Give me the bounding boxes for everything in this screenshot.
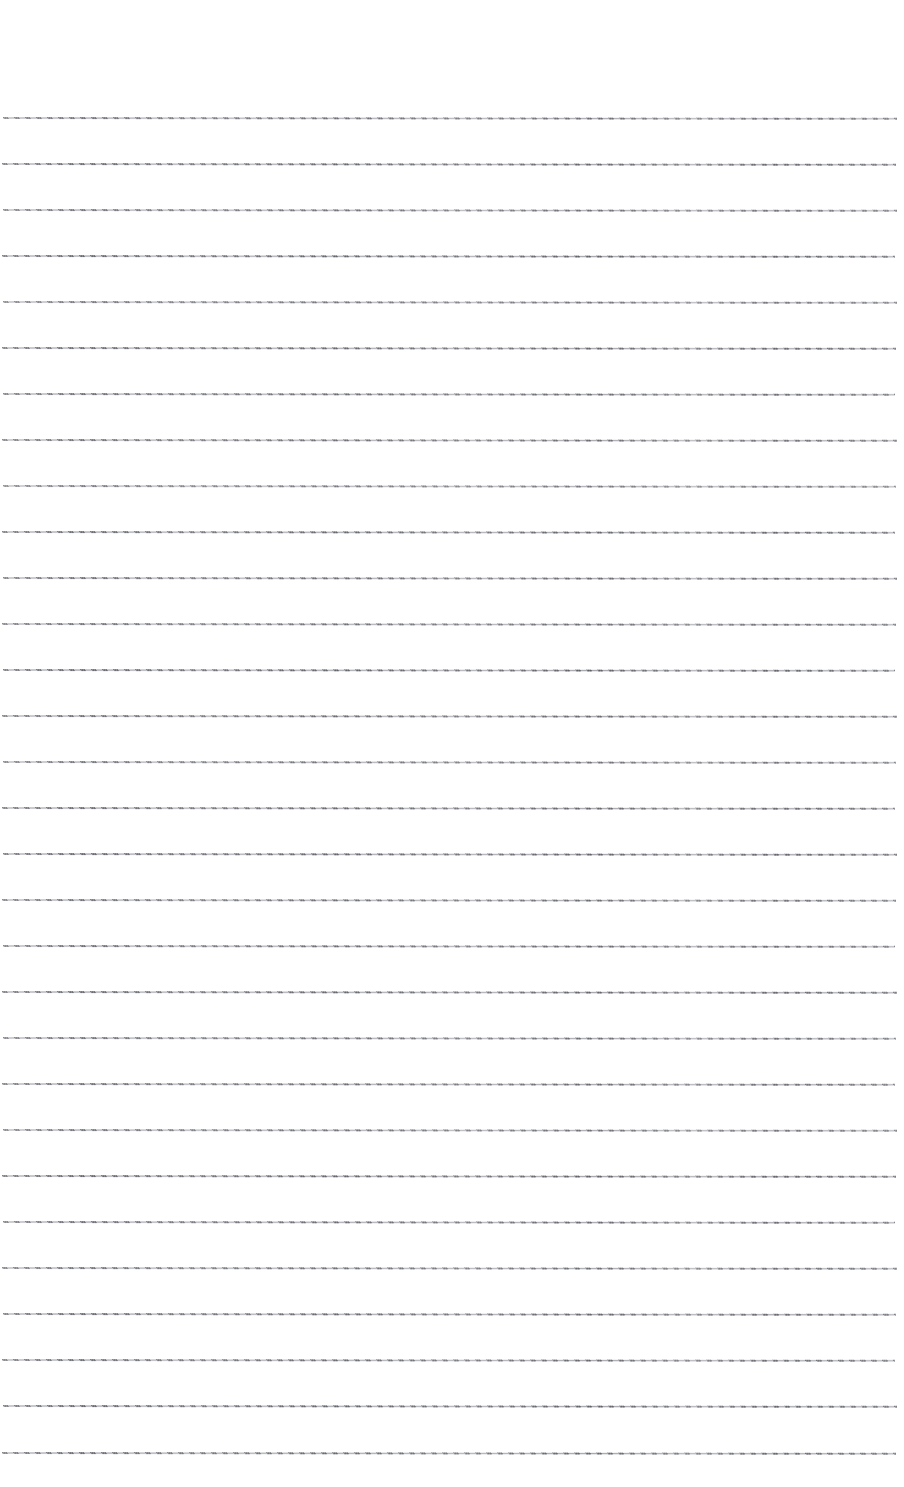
ruled-line <box>3 1221 895 1224</box>
bottom-margin-area <box>0 1454 904 1487</box>
ruled-line <box>3 1037 896 1040</box>
ruled-line <box>2 623 896 626</box>
ruled-line <box>2 991 897 994</box>
ruled-line <box>2 347 896 350</box>
ruled-line <box>2 715 897 718</box>
ruled-line <box>3 1313 896 1316</box>
ruled-line <box>2 439 897 442</box>
ruled-line <box>3 577 897 580</box>
ruled-page <box>0 0 904 1487</box>
ruled-line <box>3 669 895 672</box>
ruled-line <box>3 117 897 120</box>
ruled-line <box>2 1267 897 1270</box>
ruled-line <box>3 853 897 856</box>
ruled-line <box>2 1083 895 1086</box>
ruled-line <box>3 1405 897 1408</box>
ruled-line <box>3 1129 897 1132</box>
ruled-line <box>3 485 896 488</box>
ruled-line <box>2 1452 896 1455</box>
ruled-line <box>3 393 895 396</box>
ruled-line <box>3 209 897 212</box>
ruled-line <box>3 761 896 764</box>
ruled-line <box>2 163 896 166</box>
ruled-line <box>2 807 895 810</box>
ruled-line <box>2 899 896 902</box>
top-margin-area <box>0 0 904 117</box>
ruled-line <box>2 255 895 258</box>
ruled-line <box>3 945 895 948</box>
ruled-line <box>2 1359 895 1362</box>
ruled-line <box>3 301 897 304</box>
ruled-line <box>2 1175 896 1178</box>
ruled-line <box>2 531 895 534</box>
